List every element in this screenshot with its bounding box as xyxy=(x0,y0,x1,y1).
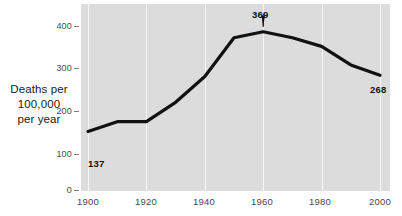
y-tick-mark-0 xyxy=(74,190,79,191)
x-tick-label-2000: 2000 xyxy=(357,196,402,207)
x-tick-label-1940: 1940 xyxy=(181,196,227,207)
annotation-start-137: 137 xyxy=(88,158,104,169)
y-tick-label-100: 100 xyxy=(32,149,72,159)
y-tick-mark-300 xyxy=(74,68,79,69)
gridline-2000 xyxy=(380,4,381,191)
y-tick-mark-200 xyxy=(74,111,79,112)
y-axis-title: Deaths per 100,000 per year xyxy=(0,82,78,127)
y-tick-label-400: 400 xyxy=(32,21,72,31)
y-tick-mark-100 xyxy=(74,154,79,155)
x-tick-label-1960: 1960 xyxy=(239,196,285,207)
x-tick-label-1980: 1980 xyxy=(297,196,343,207)
plot-area xyxy=(81,4,390,191)
gridline-1920 xyxy=(146,4,147,191)
y-axis-title-line-1: Deaths per xyxy=(0,82,78,97)
gridline-1960 xyxy=(263,4,264,191)
annotation-end-268: 268 xyxy=(370,84,386,95)
y-tick-label-300: 300 xyxy=(32,63,72,73)
annotation-peak-369: 369 xyxy=(252,9,268,20)
gridline-1980 xyxy=(322,4,323,191)
y-tick-mark-400 xyxy=(74,26,79,27)
y-tick-label-0: 0 xyxy=(32,185,72,195)
x-tick-label-1900: 1900 xyxy=(65,196,111,207)
gridline-1940 xyxy=(205,4,206,191)
x-tick-label-1920: 1920 xyxy=(123,196,169,207)
line-chart: Deaths per 100,000 per year 400 300 200 … xyxy=(0,0,402,216)
y-tick-label-200: 200 xyxy=(32,106,72,116)
